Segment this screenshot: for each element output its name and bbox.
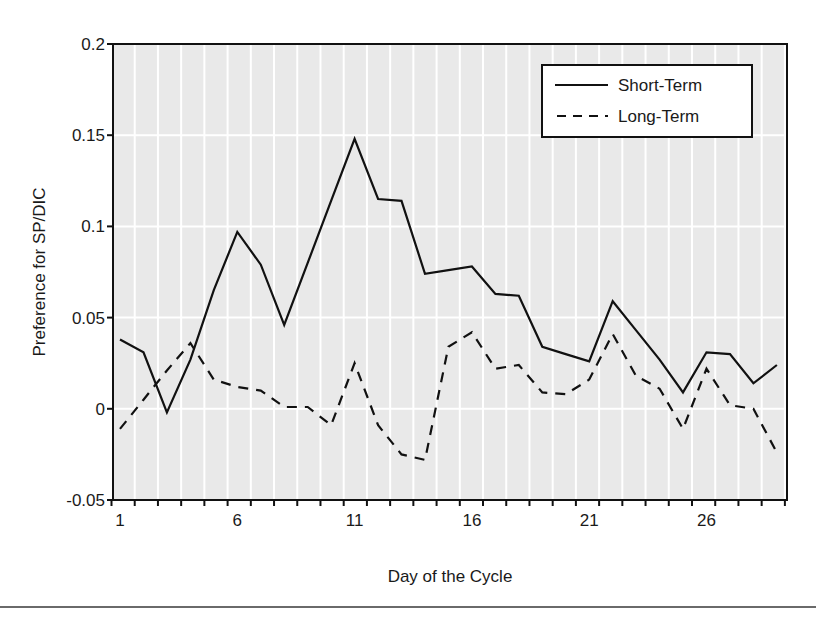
line-chart: -0.0500.050.10.150.2 1611162126 Preferen… <box>0 0 816 620</box>
x-tick-label: 11 <box>346 511 364 530</box>
y-tick-label: -0.05 <box>66 491 105 510</box>
y-tick-label: 0.1 <box>81 217 105 236</box>
x-tick-label: 26 <box>697 511 716 530</box>
y-tick-label: 0.05 <box>72 309 105 328</box>
x-tick-label: 21 <box>580 511 599 530</box>
legend: Short-Term Long-Term <box>542 65 752 137</box>
x-axis: 1611162126 <box>112 500 785 530</box>
x-tick-label: 1 <box>115 511 124 530</box>
x-tick-label: 6 <box>233 511 242 530</box>
y-axis-title: Preference for SP/DIC <box>30 187 49 356</box>
y-axis: -0.0500.050.10.150.2 <box>66 35 113 510</box>
legend-label-short-term: Short-Term <box>618 76 702 95</box>
x-tick-label: 16 <box>462 511 481 530</box>
x-axis-title: Day of the Cycle <box>388 567 513 586</box>
y-tick-label: 0 <box>96 400 105 419</box>
y-tick-label: 0.15 <box>72 126 105 145</box>
legend-label-long-term: Long-Term <box>618 107 699 126</box>
y-tick-label: 0.2 <box>81 35 105 54</box>
bottom-divider <box>0 606 816 608</box>
